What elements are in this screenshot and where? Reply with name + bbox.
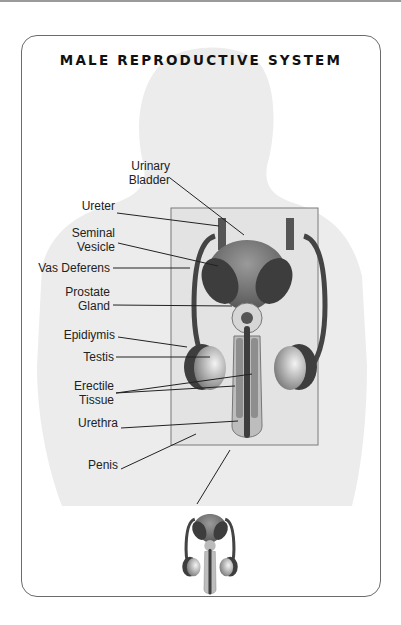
label-line: Prostate xyxy=(42,285,110,299)
label-epididymis: Epidiymis xyxy=(42,328,115,342)
label-line: Seminal xyxy=(42,226,115,240)
label-line: Bladder xyxy=(112,173,170,187)
label-urinary-bladder: Urinary Bladder xyxy=(112,159,170,187)
label-line: Vesicle xyxy=(42,240,115,254)
label-ureter: Ureter xyxy=(42,199,115,213)
label-line: Gland xyxy=(42,299,110,313)
label-vas-deferens: Vas Deferens xyxy=(24,261,110,275)
label-testis: Testis xyxy=(62,350,114,364)
diagram-card: MALE REPRODUCTIVE SYSTEM xyxy=(21,35,381,597)
label-urethra: Urethra xyxy=(62,416,118,430)
top-rule xyxy=(0,0,401,2)
label-line: Erectile xyxy=(62,379,114,393)
label-line: Tissue xyxy=(62,393,114,407)
anatomy-illustration xyxy=(22,36,380,596)
label-seminal-vesicle: Seminal Vesicle xyxy=(42,226,115,254)
label-penis: Penis xyxy=(62,458,118,472)
mini-thumbnail xyxy=(182,514,237,594)
label-erectile-tissue: Erectile Tissue xyxy=(62,379,114,407)
label-prostate-gland: Prostate Gland xyxy=(42,285,110,313)
label-line: Urinary xyxy=(112,159,170,173)
